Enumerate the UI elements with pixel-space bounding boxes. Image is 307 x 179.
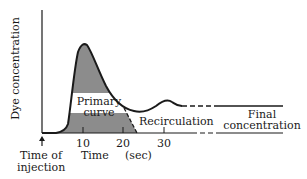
- arrow-head-icon: [39, 136, 45, 141]
- x-tick-label-10: 10: [76, 138, 90, 149]
- injection-label-2: injection: [17, 162, 65, 173]
- x-tick-label-30: 30: [157, 138, 171, 149]
- y-axis-label: Dye concentration: [9, 14, 22, 124]
- x-tick-label-20: 20: [116, 138, 130, 149]
- recirculation-label: Recirculation: [139, 116, 214, 127]
- primary-label-2: curve: [74, 107, 124, 118]
- primary-curve-area: [58, 44, 137, 133]
- x-axis-label-time: Time: [81, 150, 109, 161]
- x-axis-label-unit: (sec): [125, 150, 152, 161]
- injection-label-1: Time of: [20, 150, 62, 161]
- final-label-2: concentration: [222, 120, 302, 131]
